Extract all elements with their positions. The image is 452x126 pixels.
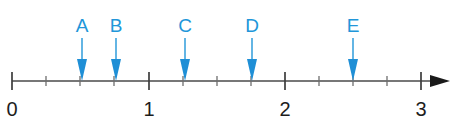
marker-arrowhead-a — [77, 59, 87, 81]
marker-a-group: A — [76, 15, 89, 81]
number-line-svg: 0 1 2 3 A B C D E — [0, 0, 452, 126]
marker-e-group: E — [347, 15, 360, 81]
marker-arrowhead-c — [180, 59, 190, 81]
axis-tick-label-2: 2 — [279, 98, 290, 120]
marker-label-b: B — [110, 15, 123, 36]
marker-d-group: D — [245, 15, 259, 81]
axis-tick-labels-group: 0 1 2 3 — [6, 98, 426, 120]
number-line-figure: 0 1 2 3 A B C D E — [0, 0, 452, 126]
marker-label-c: C — [178, 15, 192, 36]
marker-c-group: C — [178, 15, 192, 81]
marker-label-e: E — [347, 15, 360, 36]
marker-arrowhead-e — [348, 59, 358, 81]
marker-label-d: D — [245, 15, 259, 36]
axis-tick-label-3: 3 — [415, 98, 426, 120]
axis-group — [12, 75, 450, 87]
marker-arrowhead-b — [111, 59, 121, 81]
axis-tick-label-0: 0 — [6, 98, 17, 120]
axis-right-arrowhead — [430, 75, 450, 87]
marker-label-a: A — [76, 15, 89, 36]
marker-arrowhead-d — [247, 59, 257, 81]
marker-b-group: B — [110, 15, 123, 81]
axis-tick-label-1: 1 — [143, 98, 154, 120]
